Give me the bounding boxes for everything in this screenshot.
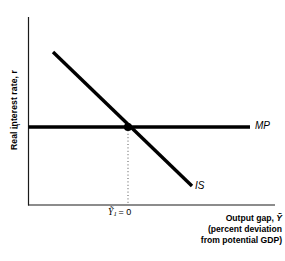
x-axis-caption-line-1-text: Output gap, bbox=[226, 213, 277, 223]
x-axis-tick-label-output-gap: Ỹ1= 0 bbox=[108, 207, 131, 219]
equilibrium-point-dot[interactable] bbox=[124, 123, 132, 131]
x-axis-caption-line-1: Output gap, Ỹ bbox=[168, 213, 282, 224]
y-axis-tick-label-r: r bbox=[16, 120, 20, 132]
is-curve[interactable] bbox=[53, 52, 192, 186]
mp-curve-label: MP bbox=[255, 120, 270, 132]
is-curve-label: IS bbox=[195, 180, 204, 192]
x-axis-caption-line-3: from potential GDP) bbox=[168, 235, 282, 246]
x-axis-caption-line-2: (percent deviation bbox=[168, 224, 282, 235]
x-axis-caption: Output gap, Ỹ (percent deviation from p… bbox=[168, 213, 282, 247]
x-axis-caption-symbol: Ỹ bbox=[276, 213, 282, 224]
x-tick-equals-zero: = 0 bbox=[117, 207, 131, 217]
is-mp-diagram-figure: Real interest rate, r r MP IS Ỹ1= 0 Out… bbox=[0, 0, 285, 261]
x-tick-symbol: Ỹ bbox=[108, 207, 113, 218]
